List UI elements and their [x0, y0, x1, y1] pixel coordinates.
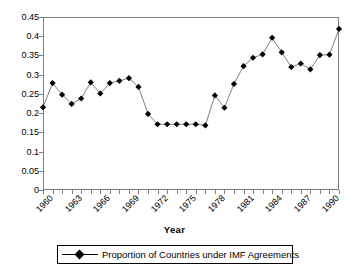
x-axis-tick-mark — [196, 190, 197, 194]
x-axis-tick-mark — [72, 190, 73, 194]
x-axis-tick-mark — [253, 190, 254, 194]
x-axis-tick-mark — [339, 190, 340, 194]
x-axis-tick-mark — [310, 190, 311, 194]
x-axis-tick-mark — [119, 190, 120, 194]
data-point-marker — [164, 121, 170, 127]
y-axis-tick-mark — [39, 152, 43, 153]
data-point-marker — [78, 95, 84, 101]
data-point-marker — [260, 51, 266, 57]
x-axis-tick-mark — [62, 190, 63, 194]
x-axis-tick-mark — [129, 190, 130, 194]
x-axis-tick-mark — [244, 190, 245, 194]
x-axis-tick-mark — [205, 190, 206, 194]
data-point-marker — [317, 52, 323, 58]
chart-figure: 0.450.40.350.30.250.20.150.10.050 Year P… — [0, 0, 349, 275]
x-axis-tick-mark — [186, 190, 187, 194]
y-axis-tick-mark — [39, 55, 43, 56]
y-axis-tick-mark — [39, 113, 43, 114]
x-axis-tick-mark — [301, 190, 302, 194]
x-axis-tick-mark — [329, 190, 330, 194]
x-axis-tick-mark — [272, 190, 273, 194]
data-point-marker — [279, 49, 285, 55]
data-point-marker — [40, 104, 46, 110]
x-axis-tick-mark — [110, 190, 111, 194]
data-point-marker — [326, 52, 332, 58]
data-line — [43, 29, 339, 125]
data-point-marker — [269, 35, 275, 41]
x-axis-tick-mark — [177, 190, 178, 194]
data-point-marker — [116, 78, 122, 84]
data-markers — [40, 26, 342, 129]
y-axis-tick-mark — [39, 171, 43, 172]
x-axis-tick-mark — [81, 190, 82, 194]
x-axis-tick-mark — [158, 190, 159, 194]
y-axis-tick-mark — [39, 75, 43, 76]
y-axis-tick-mark — [39, 36, 43, 37]
data-point-marker — [231, 81, 237, 87]
x-axis-tick-mark — [100, 190, 101, 194]
x-axis-tick-mark — [138, 190, 139, 194]
x-axis-tick-mark — [224, 190, 225, 194]
x-axis-tick-mark — [43, 190, 44, 194]
data-point-marker — [202, 122, 208, 128]
data-point-marker — [336, 26, 342, 32]
x-axis-tick-mark — [148, 190, 149, 194]
data-point-marker — [307, 66, 313, 72]
data-point-marker — [298, 60, 304, 66]
data-point-marker — [288, 64, 294, 70]
x-axis-tick-mark — [291, 190, 292, 194]
x-axis-tick-mark — [263, 190, 264, 194]
data-point-marker — [174, 121, 180, 127]
x-axis-tick-mark — [91, 190, 92, 194]
x-axis-tick-mark — [167, 190, 168, 194]
x-axis-tick-mark — [53, 190, 54, 194]
y-axis-tick-mark — [39, 17, 43, 18]
x-axis-tick-mark — [215, 190, 216, 194]
data-point-marker — [193, 121, 199, 127]
x-axis-tick-mark — [320, 190, 321, 194]
x-axis-tick-mark — [282, 190, 283, 194]
data-point-marker — [183, 121, 189, 127]
y-axis-tick-mark — [39, 132, 43, 133]
y-axis-tick-mark — [39, 94, 43, 95]
x-axis-tick-mark — [234, 190, 235, 194]
